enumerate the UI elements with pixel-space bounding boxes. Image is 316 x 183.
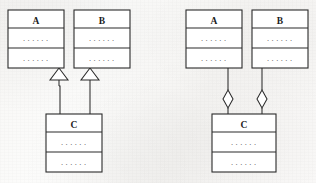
aggregation-diamond-icon [257,90,267,108]
class-name-label: A [211,16,218,26]
class-box-right-a[interactable]: A ...... ...... [186,10,242,68]
class-box-right-b[interactable]: B ...... ...... [252,10,308,68]
connector-right-a-to-c [223,68,233,114]
class-name-label: B [277,16,284,26]
diagram-canvas: A ...... ...... B ...... ...... C ......… [0,0,316,183]
class-operations-label: ...... [266,56,294,63]
class-operations-label: ...... [200,56,228,63]
aggregation-diamond-icon [223,90,233,108]
right-aggregation-diagram: A ...... ...... B ...... ...... C ......… [0,0,316,183]
class-attributes-label: ...... [230,140,258,147]
class-attributes-label: ...... [200,36,228,43]
class-box-right-c[interactable]: C ...... ...... [212,114,276,172]
class-attributes-label: ...... [266,36,294,43]
class-operations-label: ...... [230,160,258,167]
connector-right-b-to-c [257,68,267,114]
class-name-label: C [241,120,248,130]
